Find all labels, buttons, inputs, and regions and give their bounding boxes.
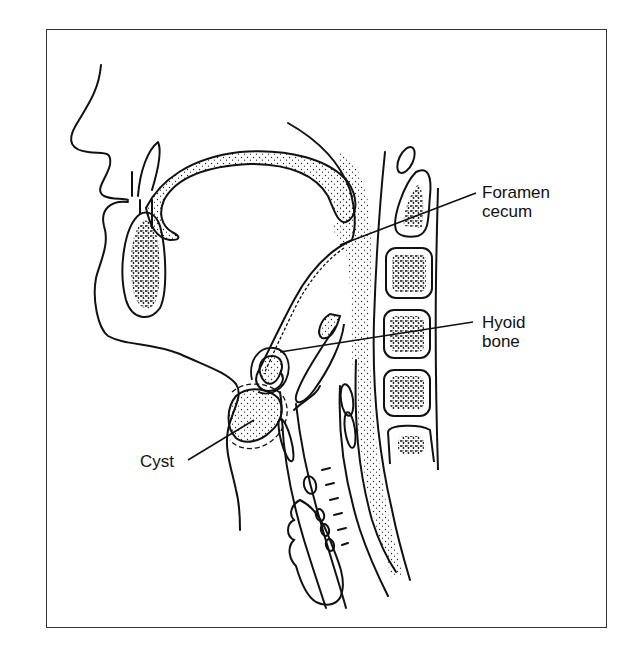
anatomy-illustration <box>0 0 641 662</box>
label-hyoid-bone-line1: Hyoid <box>482 313 525 332</box>
chin-outline <box>95 202 240 530</box>
cervical-vertebrae <box>384 144 438 470</box>
thyroglossal-cyst <box>229 389 282 442</box>
label-cyst: Cyst <box>140 452 174 471</box>
label-cyst-text: Cyst <box>140 452 174 471</box>
label-hyoid-bone-line2: bone <box>482 332 525 351</box>
upper-incisor <box>138 142 160 196</box>
trachea-front <box>282 420 326 608</box>
hyoid-bone <box>260 356 282 384</box>
face-profile <box>71 65 128 200</box>
trachea-back <box>296 404 346 608</box>
label-hyoid-bone: Hyoid bone <box>482 313 525 351</box>
palate <box>146 151 355 240</box>
label-foramen-cecum: Foramen cecum <box>482 183 550 221</box>
leader-line-hyoid-bone <box>280 322 473 352</box>
label-foramen-cecum-line2: cecum <box>482 202 550 221</box>
label-foramen-cecum-line1: Foramen <box>482 183 550 202</box>
